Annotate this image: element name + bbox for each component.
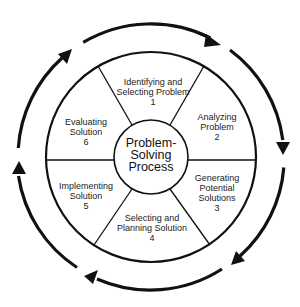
step-text: Evaluating: [65, 117, 107, 127]
step-5-label: Implementing Solution 5: [59, 181, 113, 211]
step-text: Selecting Problem: [116, 87, 189, 97]
step-3-label: Generating Potential Solutions 3: [195, 173, 240, 213]
arrow-head-icon: [12, 161, 26, 174]
step-number: 4: [117, 233, 187, 243]
step-number: 6: [65, 137, 107, 147]
step-text: Selecting and: [117, 213, 187, 223]
step-text: Generating: [195, 173, 240, 183]
step-number: 3: [195, 203, 240, 213]
arrow-head-icon: [276, 142, 290, 155]
step-text: Solution: [59, 191, 113, 201]
step-1-label: Identifying and Selecting Problem 1: [116, 77, 189, 107]
step-4-label: Selecting and Planning Solution 4: [117, 213, 187, 243]
step-text: Analyzing: [197, 112, 236, 122]
arrow-arc-3: [240, 168, 284, 257]
step-text: Implementing: [59, 181, 113, 191]
step-number: 2: [197, 132, 236, 142]
step-text: Potential: [195, 183, 240, 193]
step-6-label: Evaluating Solution 6: [65, 117, 107, 147]
step-text: Problem: [197, 122, 236, 132]
step-text: Planning Solution: [117, 223, 187, 233]
step-number: 5: [59, 201, 113, 211]
step-2-label: Analyzing Problem 2: [197, 112, 236, 142]
arrow-arc-6: [18, 58, 62, 148]
center-line-3: Process: [126, 161, 177, 173]
arrow-head-icon: [84, 270, 98, 284]
arrow-arc-2: [230, 50, 283, 140]
step-text: Solution: [65, 127, 107, 137]
arrow-arc-1: [83, 24, 210, 42]
center-label: Problem- Solving Process: [126, 137, 177, 173]
step-number: 1: [116, 97, 189, 107]
arrow-head-icon: [204, 34, 221, 47]
arrow-arc-4: [97, 269, 222, 290]
step-text: Solutions: [195, 193, 240, 203]
step-text: Identifying and: [116, 77, 189, 87]
